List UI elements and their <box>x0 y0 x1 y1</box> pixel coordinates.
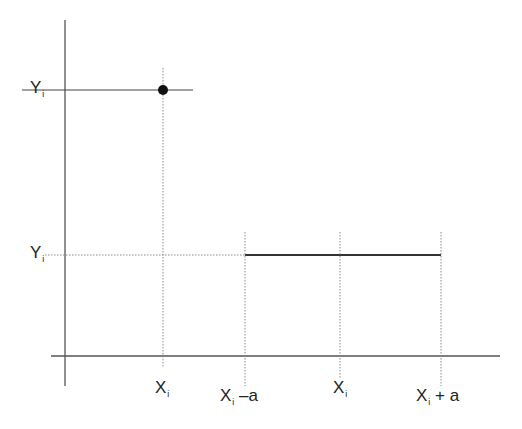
label-x-minus-a: Xi –a <box>220 386 258 407</box>
label-sub: i <box>345 389 347 399</box>
label-suffix: + a <box>430 386 459 405</box>
label-y-top: Yi <box>30 78 44 99</box>
diagram-canvas <box>0 0 522 429</box>
label-suffix: –a <box>234 386 258 405</box>
label-main: X <box>220 386 231 405</box>
data-point <box>158 85 168 95</box>
label-main: Y <box>30 78 41 97</box>
label-sub: i <box>42 89 44 99</box>
label-x-plus-a: Xi + a <box>416 386 459 407</box>
label-main: X <box>416 386 427 405</box>
label-sub: i <box>167 389 169 399</box>
label-main: Y <box>30 243 41 262</box>
label-main: X <box>333 378 344 397</box>
label-sub: i <box>42 254 44 264</box>
label-y-bottom: Yi <box>30 243 44 264</box>
label-x-center: Xi <box>333 378 347 399</box>
label-x-left: Xi <box>155 378 169 399</box>
label-main: X <box>155 378 166 397</box>
